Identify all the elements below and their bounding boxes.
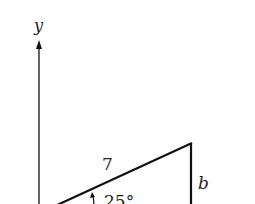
right-triangle-diagram: y 7 b 25° (0, 0, 255, 204)
angle-arrow-icon (90, 192, 95, 204)
y-axis (36, 40, 42, 204)
side-b-label: b (198, 173, 209, 193)
y-axis-arrowhead-icon (36, 40, 42, 49)
angle-label: 25° (104, 191, 134, 204)
y-axis-label: y (33, 16, 44, 35)
hypotenuse-label: 7 (102, 154, 113, 174)
